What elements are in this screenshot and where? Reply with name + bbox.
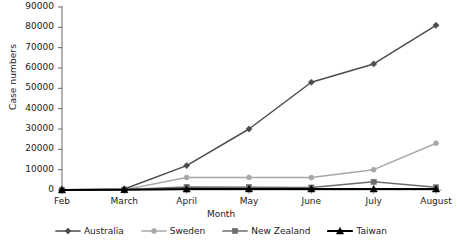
square-marker-icon [222,226,248,236]
legend-item-new-zealand[interactable]: New Zealand [222,226,310,236]
circle-marker-icon [141,226,167,236]
x-axis-label: Month [0,209,442,219]
legend-label: New Zealand [251,226,310,236]
diamond-marker-icon [55,226,81,236]
chart-legend: AustraliaSwedenNew ZealandTaiwan [0,224,442,238]
series-taiwan [58,185,439,193]
legend-label: Australia [84,226,124,236]
series-australia [59,22,439,193]
legend-item-taiwan[interactable]: Taiwan [327,226,387,236]
legend-item-australia[interactable]: Australia [55,226,124,236]
legend-item-sweden[interactable]: Sweden [141,226,206,236]
legend-label: Taiwan [356,226,387,236]
legend-label: Sweden [170,226,206,236]
triangle-marker-icon [327,226,353,236]
